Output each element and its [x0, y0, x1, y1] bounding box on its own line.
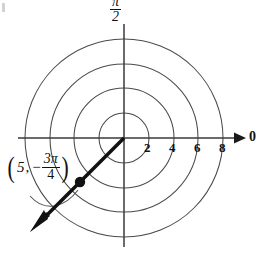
- label-r-value: 5: [16, 159, 26, 176]
- pi-over-two-fraction: π 2: [110, 0, 121, 25]
- pi-over-two-denominator: 2: [110, 10, 121, 24]
- label-close-paren: ): [61, 152, 68, 182]
- theta-numerator: 3π: [42, 152, 60, 167]
- plotted-point-marker: [75, 177, 85, 187]
- polar-axis-arrowhead: [234, 133, 246, 144]
- radial-tick-label-4: 4: [169, 140, 176, 156]
- polar-grid-svg: [0, 0, 266, 254]
- theta-denominator: 4: [42, 168, 60, 182]
- point-coordinate-label: ( 5 , − 3π 4 ): [6, 150, 70, 184]
- polar-plot-figure: π 2 2 4 6 8 0 ( 5 , − 3π 4 ): [0, 0, 266, 254]
- theta-fraction: 3π 4: [42, 152, 60, 182]
- label-minus-sign: −: [31, 159, 41, 176]
- radial-tick-label-8: 8: [219, 140, 226, 156]
- radial-tick-label-6: 6: [194, 140, 201, 156]
- ray-arrowhead-barb: [30, 210, 48, 232]
- vertical-axis-label: π 2: [110, 0, 121, 25]
- label-open-paren: (: [7, 152, 14, 182]
- polar-axis-label-zero: 0: [249, 129, 256, 145]
- radial-tick-label-2: 2: [144, 140, 151, 156]
